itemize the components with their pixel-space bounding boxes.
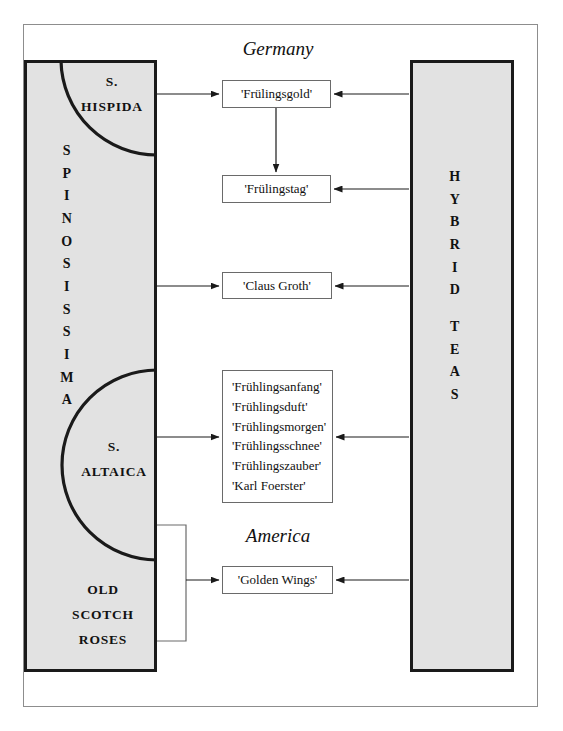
cultivar-entry: 'Frühlingsanfang' [232, 377, 332, 397]
cultivar-entry: 'Frühlingszauber' [232, 456, 332, 476]
letter: P [62, 163, 71, 186]
species-label-line: SCOTCH [58, 603, 148, 628]
letter: B [450, 211, 460, 234]
letter: D [450, 279, 461, 302]
species-label-altaica: S. ALTAICA [74, 435, 154, 485]
region-heading-germany: Germany [208, 38, 348, 60]
cultivar-box-fruelingstag: 'Frülingstag' [222, 175, 331, 203]
letter: S [63, 299, 71, 322]
species-label-hispida: S. HISPIDA [72, 70, 152, 120]
species-label-line: ALTAICA [74, 460, 154, 485]
region-heading-america: America [208, 525, 348, 547]
letter: S [63, 140, 71, 163]
letter: A [62, 389, 73, 412]
letter: M [60, 367, 74, 390]
hybrid-teas-vertical-label: H Y B R I D T E A S [443, 166, 467, 407]
cultivar-box-claus-groth: 'Claus Groth' [222, 272, 332, 299]
cultivar-entry: 'Karl Foerster' [232, 476, 332, 496]
letter: S [63, 321, 71, 344]
letter: I [64, 344, 70, 367]
species-label-line: S. [72, 70, 152, 95]
letter: I [64, 185, 70, 208]
species-label-line: S. [74, 435, 154, 460]
letter: I [452, 257, 458, 280]
cultivar-box-golden-wings: 'Golden Wings' [222, 566, 333, 594]
letter: E [450, 339, 460, 362]
letter: T [450, 316, 460, 339]
diagram-canvas: S P I N O S I S S I M A H Y B R I D T E … [0, 0, 563, 731]
letter: S [451, 384, 459, 407]
letter: H [449, 166, 460, 189]
cultivar-entry: 'Frühlingsschnee' [232, 436, 332, 456]
cultivar-box-fruelingsgold: 'Frülingsgold' [222, 80, 331, 108]
spinosissima-vertical-label: S P I N O S I S S I M A [55, 140, 79, 412]
cultivar-box-fruehlings-group: 'Frühlingsanfang' 'Frühlingsduft' 'Frühl… [222, 370, 333, 503]
letter: S [63, 253, 71, 276]
cultivar-entry: 'Frühlingsduft' [232, 397, 332, 417]
species-label-old-scotch-roses: OLD SCOTCH ROSES [58, 578, 148, 653]
letter: N [62, 208, 73, 231]
species-label-line: OLD [58, 578, 148, 603]
letter: R [450, 234, 461, 257]
letter: A [450, 361, 461, 384]
cultivar-entry: 'Frühlingsmorgen' [232, 417, 332, 437]
species-label-line: HISPIDA [72, 95, 152, 120]
species-label-line: ROSES [58, 628, 148, 653]
letter: I [64, 276, 70, 299]
letter: Y [450, 189, 461, 212]
letter: O [61, 231, 72, 254]
